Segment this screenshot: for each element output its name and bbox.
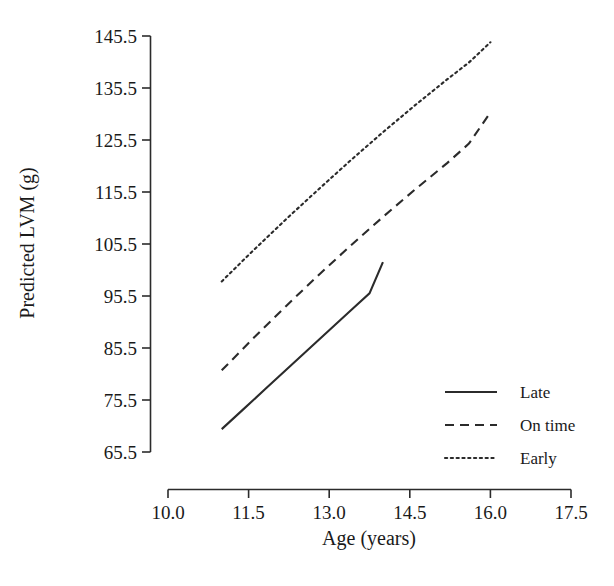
- x-tick-label: 17.5: [554, 502, 587, 523]
- legend-label-early: Early: [520, 449, 557, 468]
- legend-label-late: Late: [520, 383, 550, 402]
- y-tick-labels: 65.575.585.595.5105.5115.5125.5135.5145.…: [94, 26, 137, 463]
- y-tick-label: 135.5: [94, 78, 137, 99]
- x-tick-label: 10.0: [151, 502, 184, 523]
- y-tick-label: 115.5: [95, 182, 137, 203]
- y-axis: 65.575.585.595.5105.5115.5125.5135.5145.…: [16, 26, 151, 463]
- x-tick-label: 16.0: [474, 502, 507, 523]
- x-axis: 10.011.513.014.516.017.5 Age (years): [151, 490, 587, 551]
- series-line-on-time: [222, 112, 491, 370]
- chart-figure: 65.575.585.595.5105.5115.5125.5135.5145.…: [0, 0, 614, 586]
- line-chart-svg: 65.575.585.595.5105.5115.5125.5135.5145.…: [0, 0, 614, 586]
- x-tick-label: 14.5: [393, 502, 426, 523]
- y-tick-label: 95.5: [104, 286, 137, 307]
- series-line-early: [222, 42, 491, 281]
- series-layer: [222, 42, 491, 429]
- y-tick-label: 145.5: [94, 26, 137, 47]
- y-tick-label: 105.5: [94, 234, 137, 255]
- x-tick-marks: [168, 490, 571, 499]
- y-tick-label: 85.5: [104, 338, 137, 359]
- y-tick-label: 75.5: [104, 390, 137, 411]
- x-tick-label: 11.5: [232, 502, 265, 523]
- y-tick-label: 125.5: [94, 130, 137, 151]
- x-tick-labels: 10.011.513.014.516.017.5: [151, 502, 587, 523]
- legend-label-on-time: On time: [520, 416, 575, 435]
- y-axis-title: Predicted LVM (g): [16, 167, 39, 318]
- x-tick-label: 13.0: [313, 502, 346, 523]
- x-axis-title: Age (years): [322, 527, 416, 550]
- chart-legend: LateOn timeEarly: [445, 383, 575, 468]
- y-tick-label: 65.5: [104, 442, 137, 463]
- y-tick-marks: [142, 36, 151, 452]
